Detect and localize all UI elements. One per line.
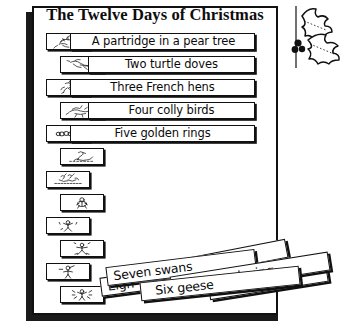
verse-label-text-1: A partridge in a pear tree (90, 36, 236, 48)
poster-canvas: The Twelve Days of Christmas A partridge… (0, 0, 346, 332)
verse-icon-10[interactable] (60, 240, 104, 257)
verse-icon-9[interactable] (46, 217, 90, 234)
verse-label-2[interactable]: Two turtle doves (88, 56, 255, 73)
verse-label-3[interactable]: Three French hens (70, 79, 255, 96)
verse-label-1[interactable]: A partridge in a pear tree (70, 33, 255, 50)
verse-label-5[interactable]: Five golden rings (70, 125, 255, 142)
page-title: The Twelve Days of Christmas (32, 5, 278, 25)
verse-label-text-2: Two turtle doves (125, 59, 218, 71)
verse-icon-6[interactable] (60, 148, 104, 165)
verse-label-text-4: Four colly birds (129, 105, 215, 117)
verse-icon-7[interactable] (46, 171, 90, 188)
verse-label-text-3: Three French hens (110, 82, 214, 94)
verse-icon-12[interactable] (60, 286, 104, 303)
verse-label-text-5: Five golden rings (114, 128, 210, 140)
verse-icon-8[interactable] (60, 194, 104, 211)
holly-sprig-icon (262, 2, 346, 74)
verse-icon-11[interactable] (46, 263, 90, 280)
verse-label-4[interactable]: Four colly birds (88, 102, 255, 119)
